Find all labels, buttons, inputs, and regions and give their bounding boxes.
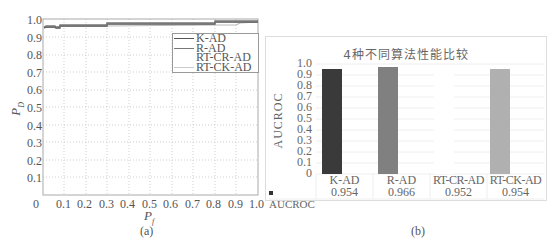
row-label-cell: AUCROC bbox=[269, 186, 316, 210]
bar-rt-cr-ad bbox=[434, 69, 454, 174]
roc-y-label: PD bbox=[8, 102, 26, 116]
value-cell: 0.954 bbox=[487, 186, 544, 210]
legend-swatch bbox=[174, 67, 194, 68]
x-tick: 0.2 bbox=[77, 197, 92, 212]
bar-r-ad bbox=[378, 67, 398, 174]
bar-y-label: AUCROC bbox=[271, 92, 286, 148]
x-tick: 0.7 bbox=[185, 197, 200, 212]
value-cell: 0.966 bbox=[373, 186, 430, 210]
caption-b: (b) bbox=[411, 224, 425, 239]
x-tick: 0.6 bbox=[163, 197, 178, 212]
x-tick: 0 bbox=[33, 197, 39, 212]
legend-swatch bbox=[174, 38, 194, 39]
x-tick: 0.9 bbox=[228, 197, 243, 212]
y-tick: 0.6 bbox=[14, 82, 42, 100]
bar-k-ad bbox=[322, 69, 342, 174]
x-tick: 0.1 bbox=[56, 197, 71, 212]
y-tick: 0.1 bbox=[14, 170, 42, 188]
x-tick: 0.4 bbox=[120, 197, 135, 212]
y-tick: 0.3 bbox=[14, 135, 42, 153]
y-tick: 0.7 bbox=[14, 65, 42, 83]
data-table-row: AUCROC 0.954 0.966 0.952 0.954 bbox=[269, 186, 544, 210]
x-tick: 0.3 bbox=[99, 197, 114, 212]
bar-rt-ck-ad bbox=[490, 69, 510, 174]
y-tick: 1.0 bbox=[14, 12, 42, 30]
value-cell: 0.952 bbox=[430, 186, 487, 210]
legend-item-rt-ck-ad: RT-CK-AD bbox=[173, 63, 258, 73]
y-tick: 0.4 bbox=[14, 118, 42, 136]
roc-chart-panel: 1.0 0.9 0.8 0.7 0.6 0.5 0.4 0.3 0.2 0.1 … bbox=[0, 0, 262, 246]
legend-swatch bbox=[174, 57, 194, 58]
x-tick: 1.0 bbox=[249, 197, 264, 212]
aucroc-chart-panel: 4种不同算法性能比较 1.0 0.9 0.8 0.7 0.6 0.5 0.4 0… bbox=[265, 36, 547, 201]
roc-legend: K-AD R-AD RT-CR-AD RT-CK-AD bbox=[172, 33, 259, 73]
legend-key-icon bbox=[269, 191, 273, 195]
caption-a: (a) bbox=[140, 224, 153, 239]
y-tick: 0.2 bbox=[14, 153, 42, 171]
legend-swatch bbox=[174, 48, 194, 49]
value-cell: 0.954 bbox=[316, 186, 373, 210]
roc-x-label: Pf bbox=[144, 208, 154, 226]
y-tick: 0 bbox=[280, 168, 312, 179]
x-tick: 0.8 bbox=[206, 197, 221, 212]
roc-y-ticks: 1.0 0.9 0.8 0.7 0.6 0.5 0.4 0.3 0.2 0.1 bbox=[14, 12, 42, 188]
y-tick: 0.8 bbox=[14, 47, 42, 65]
y-tick: 0.9 bbox=[14, 30, 42, 48]
